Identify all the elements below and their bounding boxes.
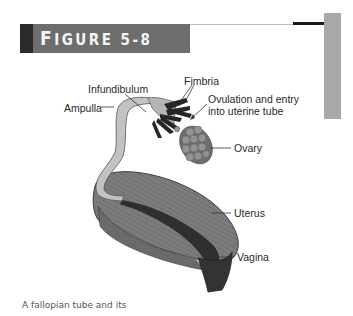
label-ovulation-line1: Ovulation and entry (208, 93, 299, 105)
label-ovary: Ovary (234, 142, 262, 154)
label-ampulla: Ampulla (64, 102, 102, 114)
ovary-shape (173, 120, 219, 170)
label-fimbria: Fimbria (184, 75, 219, 87)
label-uterus: Uterus (234, 207, 265, 219)
figure-caption: A fallopian tube and its (22, 300, 126, 310)
label-ovulation-line2: into uterine tube (208, 105, 283, 117)
label-vagina: Vagina (237, 251, 269, 263)
uterus-shape (93, 172, 238, 270)
label-infundibulum: Infundibulum (88, 83, 148, 95)
fallopian-tube-illustration (0, 0, 353, 316)
egg-shape (174, 126, 179, 131)
